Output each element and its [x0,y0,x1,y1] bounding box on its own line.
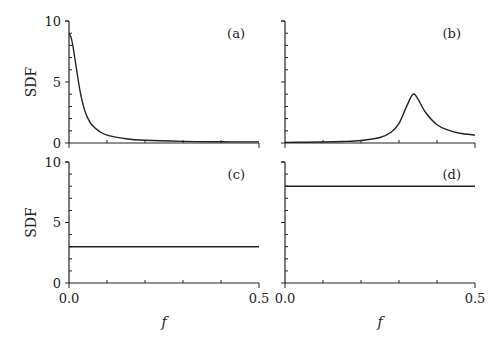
x-tick-label: 0.0 [275,291,296,306]
panel-label: (d) [443,167,461,182]
sdf-curve [69,33,259,142]
panel-label: (b) [443,26,461,41]
x-axis-label: f [376,314,385,330]
y-tick-label: 10 [44,155,61,170]
panel-label: (a) [227,26,245,41]
y-axis-label: SDF [23,66,39,97]
x-tick-label: 0.5 [465,291,486,306]
panel-c: 0510SDF0.00.5f(c) [23,155,269,331]
y-tick-label: 5 [53,75,61,90]
y-tick-label: 10 [44,14,61,29]
panel-d: 0.00.5f(d) [275,162,486,330]
y-tick-label: 5 [53,215,61,230]
sdf-curve [285,94,475,142]
y-tick-label: 0 [53,136,61,151]
x-tick-label: 0.0 [59,291,80,306]
sdf-figure: 0510SDF(a)(b)0510SDF0.00.5f(c)0.00.5f(d) [0,0,502,340]
y-tick-label: 0 [53,276,61,291]
panel-label: (c) [228,167,245,182]
x-axis-label: f [160,314,169,330]
panel-a: 0510SDF(a) [23,14,259,151]
x-tick-label: 0.5 [249,291,270,306]
y-axis-label: SDF [23,207,39,238]
panel-b: (b) [281,21,475,148]
